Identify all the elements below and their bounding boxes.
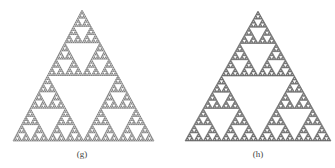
caption-g: (g) <box>67 149 97 159</box>
sierpinski-triangle-g <box>13 10 154 141</box>
sierpinski-path <box>185 11 331 141</box>
caption-h: (h) <box>243 149 273 159</box>
sierpinski-triangle-h <box>185 11 331 141</box>
sierpinski-canvas <box>0 0 335 168</box>
sierpinski-path <box>13 10 154 141</box>
